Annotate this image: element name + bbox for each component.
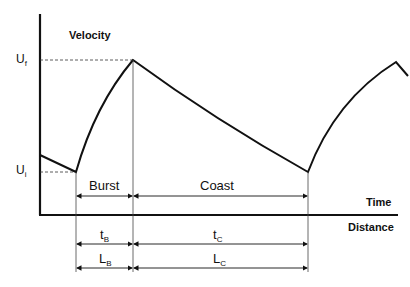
distance-axis-label: Distance (348, 221, 394, 233)
y-axis-label: Velocity (69, 29, 111, 41)
tc-label: tC (213, 227, 222, 244)
burst-coast-diagram (0, 0, 410, 287)
lower-level-label: Ui (16, 163, 26, 179)
lc-label: LC (213, 251, 226, 268)
velocity-curve (40, 60, 408, 172)
coast-label: Coast (200, 178, 234, 193)
tb-label: tB (100, 227, 109, 244)
time-axis-label: Time (366, 196, 391, 208)
burst-label: Burst (89, 178, 119, 193)
upper-level-label: Uf (16, 52, 27, 68)
lb-label: LB (99, 251, 112, 268)
